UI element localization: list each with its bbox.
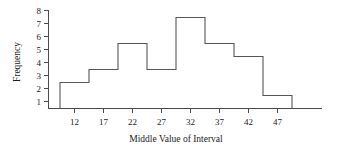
x-tick-label-12: 12: [70, 117, 79, 127]
y-tick-label-7: 7: [37, 19, 42, 29]
x-tick-label-32: 32: [186, 117, 195, 127]
y-tick-label-1: 1: [37, 97, 42, 107]
x-tick-label-22: 22: [128, 117, 137, 127]
histogram-plot: Frequency 8 7 6 5 4 3 2 1: [0, 0, 343, 153]
x-axis-tick-labels: 12 17 22 27 32 37 42 47: [70, 117, 283, 127]
x-tick-label-42: 42: [244, 117, 253, 127]
x-tick-label-37: 37: [215, 117, 225, 127]
y-axis-ticks: [44, 11, 49, 102]
y-tick-label-4: 4: [37, 58, 42, 68]
y-tick-label-3: 3: [37, 71, 42, 81]
x-tick-label-17: 17: [99, 117, 109, 127]
y-tick-label-5: 5: [37, 45, 42, 55]
x-axis-title: Middle Value of Interval: [129, 134, 223, 144]
x-tick-label-47: 47: [273, 117, 283, 127]
y-axis-title: Frequency: [12, 42, 22, 82]
y-tick-label-6: 6: [37, 32, 42, 42]
y-tick-label-8: 8: [37, 6, 42, 16]
histogram-outline: [60, 18, 292, 109]
y-axis-tick-labels: 8 7 6 5 4 3 2 1: [37, 6, 42, 107]
histogram-figure: Frequency 8 7 6 5 4 3 2 1: [0, 0, 343, 153]
x-axis-ticks: [75, 109, 278, 114]
y-tick-label-2: 2: [37, 84, 42, 94]
x-tick-label-27: 27: [157, 117, 167, 127]
